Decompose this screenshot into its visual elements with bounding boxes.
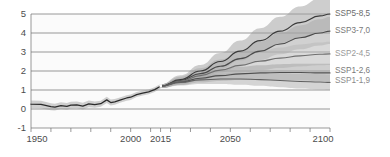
x-axis-labels: 19502000201520502100 xyxy=(26,133,333,144)
y-label-5: 5 xyxy=(21,8,26,19)
series-labels: SSP5-8,5SSP3-7,0SSP2-4,5SSP1-2,6SSP1-1,9 xyxy=(335,9,370,85)
y-axis-labels: 543210-1 xyxy=(18,8,26,133)
chart-canvas: 543210-1 19502000201520502100 SSP5-8,5SS… xyxy=(0,0,390,157)
x-label-1950: 1950 xyxy=(26,133,47,144)
series-label-SSP1-2,6: SSP1-2,6 xyxy=(335,66,370,75)
y-label--1: -1 xyxy=(18,122,26,133)
y-label-1: 1 xyxy=(21,84,26,95)
y-label-2: 2 xyxy=(21,65,26,76)
y-label-3: 3 xyxy=(21,46,26,57)
x-label-2015: 2015 xyxy=(150,133,171,144)
series-label-SSP2-4,5: SSP2-4,5 xyxy=(335,49,370,58)
x-tick-marks xyxy=(31,128,330,132)
series-label-SSP3-7,0: SSP3-7,0 xyxy=(335,26,370,35)
historical-projection-junction xyxy=(160,84,162,87)
x-label-2050: 2050 xyxy=(220,133,241,144)
y-label-0: 0 xyxy=(21,103,26,114)
y-label-4: 4 xyxy=(21,27,26,38)
climate-projection-chart: 543210-1 19502000201520502100 SSP5-8,5SS… xyxy=(0,0,390,157)
x-label-2000: 2000 xyxy=(120,133,141,144)
x-label-2100: 2100 xyxy=(312,133,333,144)
series-label-SSP5-8,5: SSP5-8,5 xyxy=(335,9,370,18)
series-label-SSP1-1,9: SSP1-1,9 xyxy=(335,76,370,85)
